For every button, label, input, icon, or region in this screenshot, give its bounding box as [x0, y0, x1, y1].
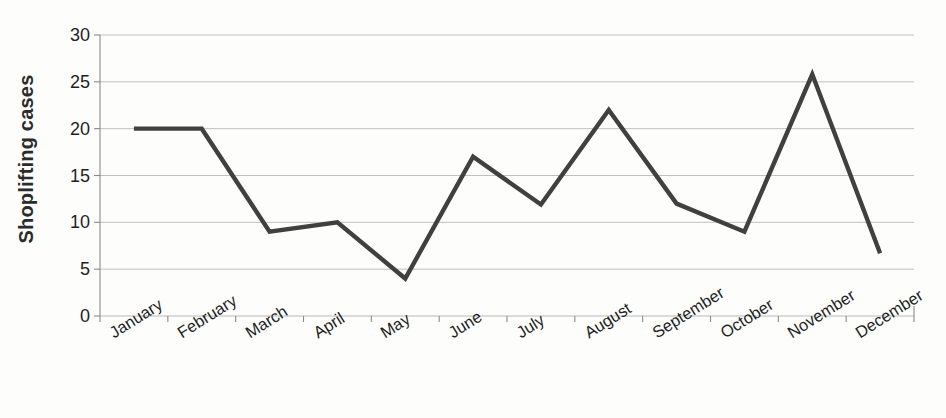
data-series-line	[134, 74, 880, 278]
y-axis-tick-marks	[94, 35, 100, 316]
gridlines	[100, 35, 914, 316]
plot-area	[0, 0, 946, 418]
line-chart: Shoplifting cases 051015202530 JanuaryFe…	[0, 0, 946, 418]
